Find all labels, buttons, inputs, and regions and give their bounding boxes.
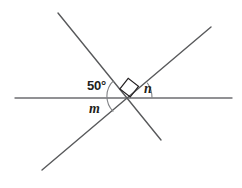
angle-n-label: n (144, 82, 152, 96)
angle-m-label: m (89, 102, 100, 116)
falling-transversal-line (58, 13, 161, 140)
arc-fifty-and-m (107, 81, 114, 112)
angle-value-label: 50° (87, 79, 106, 92)
right-angle-marker-icon (120, 78, 139, 97)
geometry-diagram: 50° m n (0, 0, 242, 188)
geometry-figure (0, 0, 242, 188)
